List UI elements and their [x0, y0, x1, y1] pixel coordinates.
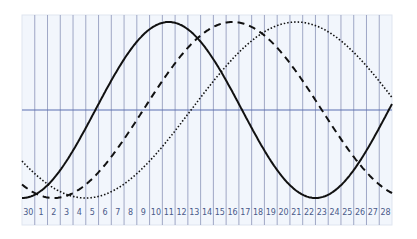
day-label: 28 [381, 208, 391, 217]
day-label: 16 [227, 208, 237, 217]
day-label: 23 [317, 208, 327, 217]
day-label: 19 [266, 208, 276, 217]
day-label: 20 [278, 208, 288, 217]
day-label: 30 [23, 208, 33, 217]
day-label: 3 [64, 208, 69, 217]
day-label: 5 [90, 208, 95, 217]
day-label: 9 [141, 208, 146, 217]
day-label: 11 [164, 208, 174, 217]
day-label: 14 [202, 208, 212, 217]
day-label: 26 [355, 208, 365, 217]
day-label: 2 [51, 208, 56, 217]
day-label: 24 [329, 208, 339, 217]
day-label: 8 [128, 208, 133, 217]
day-label: 13 [189, 208, 199, 217]
day-label: 25 [342, 208, 352, 217]
day-label: 17 [240, 208, 250, 217]
day-labels: 3012345678910111213141516171819202122232… [23, 208, 390, 217]
day-label: 22 [304, 208, 314, 217]
biorhythm-chart: 3012345678910111213141516171819202122232… [0, 0, 417, 239]
day-label: 15 [215, 208, 225, 217]
day-label: 6 [102, 208, 107, 217]
day-label: 10 [151, 208, 161, 217]
day-label: 1 [39, 208, 44, 217]
day-label: 4 [77, 208, 82, 217]
plot-background [22, 15, 392, 225]
day-label: 18 [253, 208, 263, 217]
day-label: 27 [368, 208, 378, 217]
day-label: 21 [291, 208, 301, 217]
day-label: 7 [115, 208, 120, 217]
day-label: 12 [176, 208, 186, 217]
